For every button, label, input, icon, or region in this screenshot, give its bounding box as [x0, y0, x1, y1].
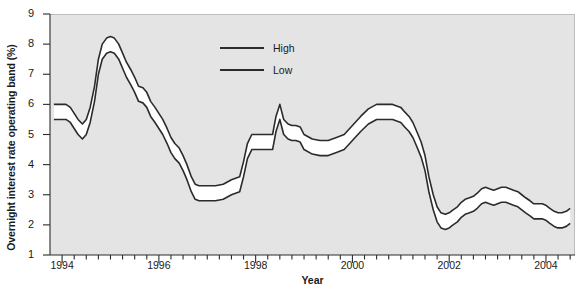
x-tick-label: 1996	[139, 260, 179, 271]
y-tick-label: 7	[8, 68, 34, 79]
x-tick-label: 2002	[429, 260, 469, 271]
legend-item-low: Low	[220, 63, 292, 77]
legend-swatch-high-icon	[220, 47, 264, 49]
y-axis-ticks	[43, 14, 50, 255]
x-tick-label: 1998	[236, 260, 276, 271]
x-axis-label: Year	[50, 274, 575, 286]
y-tick-label: 6	[8, 98, 34, 109]
y-tick-label: 8	[8, 38, 34, 49]
axis-lines	[50, 14, 575, 255]
chart-figure: Overnight interest rate operating band (…	[0, 0, 588, 295]
y-tick-label: 3	[8, 189, 34, 200]
legend-swatch-low-icon	[220, 69, 264, 71]
x-tick-label: 1994	[42, 260, 82, 271]
x-tick-label: 2004	[526, 260, 566, 271]
band-area	[54, 37, 570, 230]
x-tick-label: 2000	[332, 260, 372, 271]
y-tick-label: 5	[8, 129, 34, 140]
y-tick-label: 2	[8, 219, 34, 230]
legend-item-high: High	[220, 41, 295, 55]
series-line-high	[54, 37, 570, 215]
y-tick-label: 4	[8, 159, 34, 170]
y-tick-label: 9	[8, 8, 34, 19]
y-tick-label: 1	[8, 249, 34, 260]
legend-label-high: High	[273, 42, 295, 54]
legend-label-low: Low	[273, 64, 292, 76]
